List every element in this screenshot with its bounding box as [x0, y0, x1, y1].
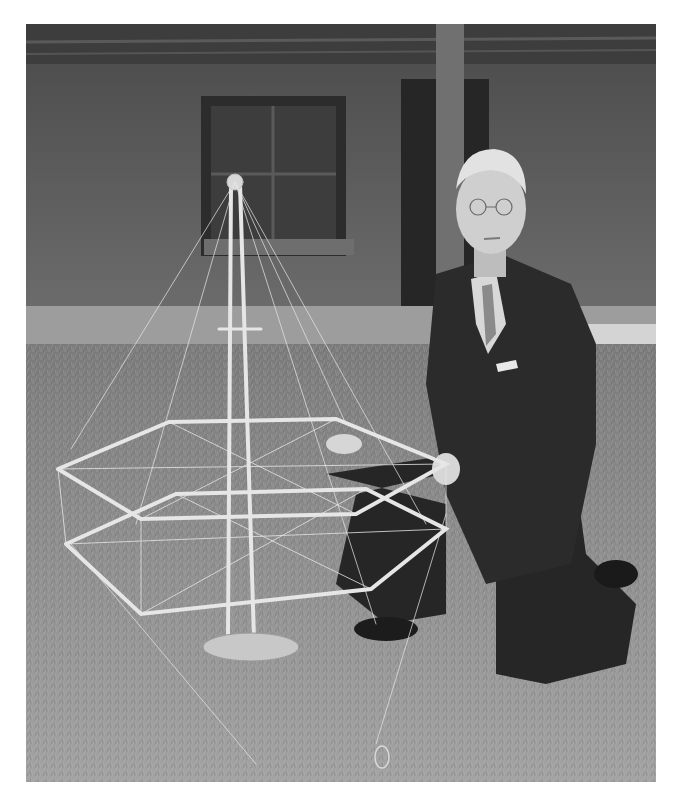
photograph — [26, 24, 656, 782]
utility-pole — [436, 24, 464, 304]
window — [201, 96, 354, 256]
photo-scene — [26, 24, 656, 782]
